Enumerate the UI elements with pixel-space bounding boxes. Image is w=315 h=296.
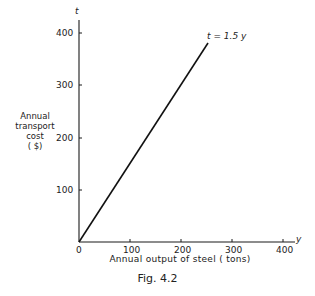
y-axis-symbol: t [75, 6, 79, 16]
y-tick-label-300: 300 [56, 80, 73, 90]
series-annotation: t = 1.5 y [207, 31, 246, 41]
x-axis-label: Annual output of steel ( tons) [40, 254, 315, 264]
y-axis-label-line-1: Annual [10, 111, 60, 121]
y-axis-label-line-2: transport [10, 121, 60, 131]
y-tick-label-100: 100 [56, 185, 73, 195]
series-line-t-1-5y [79, 43, 208, 242]
y-tick-label-400: 400 [56, 28, 73, 38]
y-axis-label-line-3: cost [10, 131, 60, 141]
y-axis-label: Annual transport cost ( $) [10, 111, 60, 151]
y-axis-label-line-4: ( $) [10, 141, 60, 151]
figure-caption: Fig. 4.2 [0, 272, 315, 285]
x-axis-symbol: y [296, 234, 301, 244]
